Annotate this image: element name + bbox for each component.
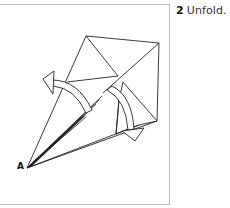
step-text: Unfold. [187, 4, 227, 17]
origami-diagram [0, 0, 170, 206]
step-number: 2 [176, 4, 184, 17]
point-a-label: A [17, 161, 24, 171]
step-instruction: 2Unfold. [176, 4, 227, 17]
